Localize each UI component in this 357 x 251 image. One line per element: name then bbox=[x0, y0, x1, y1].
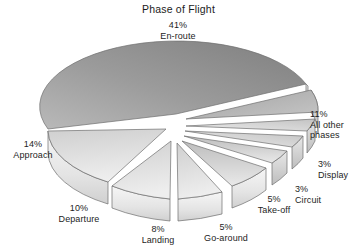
slice-label-allother: 11% All other phases bbox=[310, 109, 357, 141]
slice-label-goaround: 5% Go-around bbox=[196, 222, 256, 243]
slice-label-takeoff: 5% Take-off bbox=[250, 194, 298, 215]
slice-label-enroute: 41% En-route bbox=[142, 20, 214, 41]
slice-top-enroute bbox=[40, 41, 306, 129]
pie-chart-figure: Phase of Flight bbox=[0, 0, 357, 251]
slice-label-landing: 8% Landing bbox=[132, 224, 184, 245]
slice-top-display bbox=[186, 119, 315, 131]
slice-label-display: 3% Display bbox=[318, 159, 357, 180]
slice-label-circuit: 3% Circuit bbox=[295, 184, 333, 205]
slice-label-departure: 10% Departure bbox=[48, 203, 110, 224]
slice-label-approach: 14% Approach bbox=[4, 139, 62, 160]
